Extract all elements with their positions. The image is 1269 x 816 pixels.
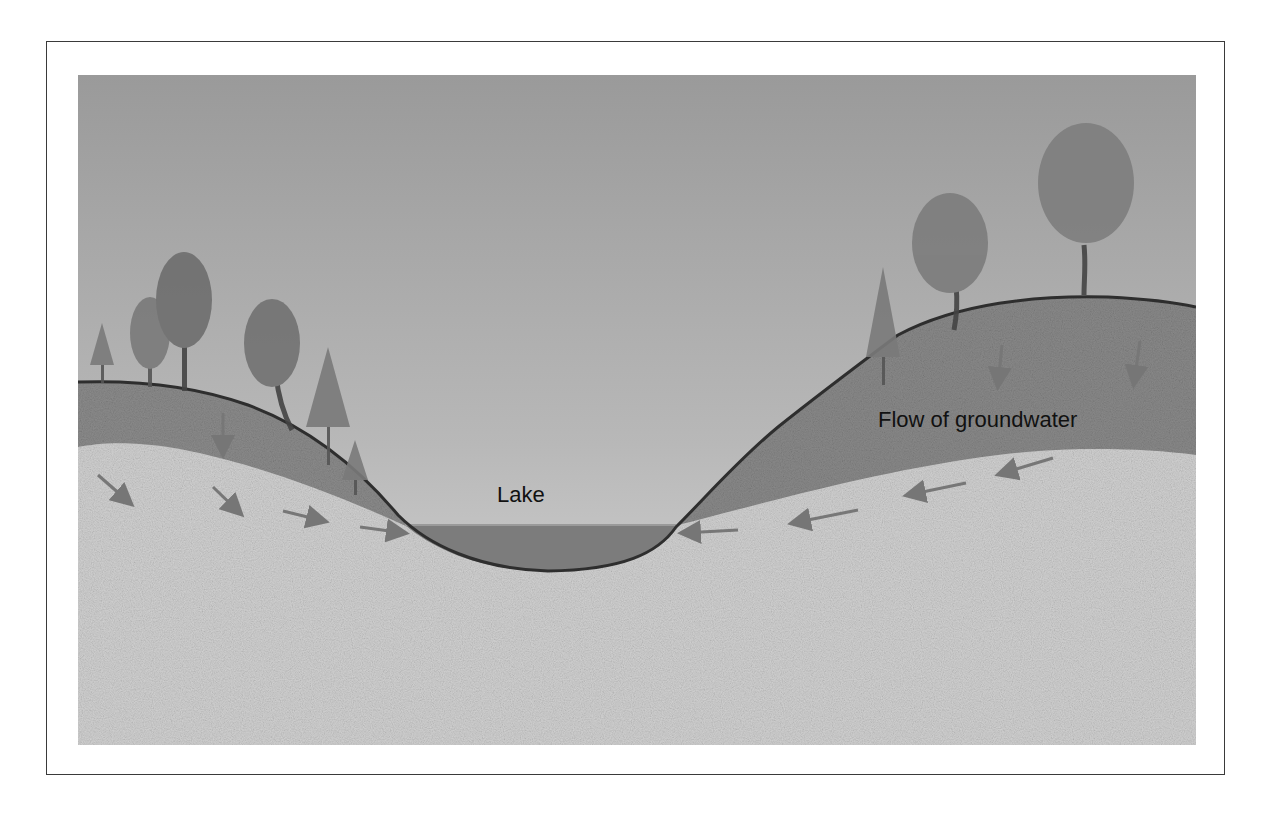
groundwater-flow-label: Flow of groundwater (878, 407, 1077, 433)
lake-label: Lake (497, 482, 545, 508)
